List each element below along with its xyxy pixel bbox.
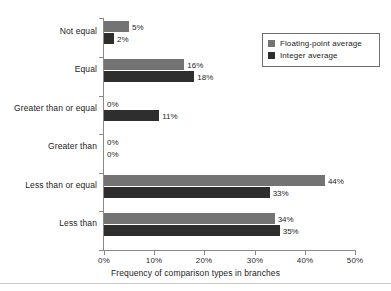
bar-row-int: 0% <box>104 148 355 159</box>
bar-lt-int <box>104 225 280 236</box>
category-label: Less than <box>59 218 97 228</box>
x-axis-tick-label: 10% <box>146 256 162 265</box>
bar-row-float: 0% <box>104 136 355 147</box>
y-axis-tick <box>99 211 104 212</box>
bar-lte-int <box>104 187 270 198</box>
bar-value-label: 0% <box>104 137 119 146</box>
bar-row-int: 35% <box>104 225 355 236</box>
x-axis-tick <box>204 251 205 255</box>
legend-item-integer-average: Integer average <box>268 50 374 61</box>
bar-value-label: 2% <box>114 34 129 43</box>
bar-not-equal-int <box>104 33 114 44</box>
y-axis-tick <box>99 134 104 135</box>
x-axis-tick <box>255 251 256 255</box>
category-label: Greater than <box>48 141 97 151</box>
y-axis-tick <box>99 57 104 58</box>
bar-row-float: 44% <box>104 175 355 186</box>
legend-swatch-icon <box>268 40 275 47</box>
bar-value-label: 33% <box>270 188 289 197</box>
legend-label: Floating-point average <box>280 39 362 48</box>
x-axis-tick-label: 0% <box>98 256 110 265</box>
bar-value-label: 16% <box>184 60 203 69</box>
x-axis-tick-label: 20% <box>196 256 212 265</box>
x-axis-tick-label: 50% <box>347 256 363 265</box>
y-axis-tick <box>99 96 104 97</box>
x-axis-tick-label: 40% <box>297 256 313 265</box>
x-axis-tick <box>104 251 105 255</box>
bar-row-float: 0% <box>104 98 355 109</box>
bar-value-label: 35% <box>280 226 299 235</box>
bar-value-label: 44% <box>325 176 344 185</box>
x-axis-title: Frequency of comparison types in branche… <box>0 268 391 278</box>
x-axis-tick <box>154 251 155 255</box>
x-axis-tick <box>355 251 356 255</box>
category-label: Less than or equal <box>25 180 97 190</box>
bar-equal-int <box>104 71 194 82</box>
bar-equal-float <box>104 59 184 70</box>
bar-value-label: 0% <box>104 149 119 158</box>
category-label: Greater than or equal <box>14 103 97 113</box>
bar-value-label: 34% <box>275 214 294 223</box>
bar-row-float: 5% <box>104 21 355 32</box>
bar-value-label: 11% <box>159 111 177 120</box>
y-axis-tick <box>99 173 104 174</box>
category-label: Equal <box>75 64 97 74</box>
legend-item-floating-point-average: Floating-point average <box>268 38 374 49</box>
legend-label: Integer average <box>280 51 338 60</box>
chart-legend: Floating-point average Integer average <box>262 33 380 67</box>
category-label: Not equal <box>60 26 97 36</box>
x-axis-tick-label: 30% <box>247 256 263 265</box>
bottom-divider <box>0 283 391 284</box>
bar-chart: Not equal 5% 2% Equal 16% 18% Greater th… <box>0 0 391 291</box>
bar-gte-int <box>104 110 159 121</box>
legend-swatch-icon <box>268 52 275 59</box>
bar-row-int: 18% <box>104 71 355 82</box>
bar-row-int: 33% <box>104 187 355 198</box>
bar-lte-float <box>104 175 325 186</box>
bar-value-label: 5% <box>129 22 144 31</box>
x-axis-line <box>104 250 356 251</box>
bar-value-label: 18% <box>194 72 213 81</box>
x-axis-tick <box>305 251 306 255</box>
bar-row-float: 34% <box>104 213 355 224</box>
bar-row-int: 11% <box>104 110 355 121</box>
bar-value-label: 0% <box>104 99 119 108</box>
bar-lt-float <box>104 213 275 224</box>
bar-not-equal-float <box>104 21 129 32</box>
y-axis-tick <box>99 18 104 19</box>
